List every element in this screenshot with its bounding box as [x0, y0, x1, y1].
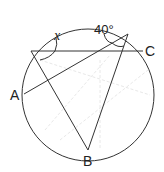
point-label-a: A	[10, 87, 20, 103]
angle-label-40: 40°	[94, 22, 114, 37]
point-label-b: B	[83, 153, 92, 169]
circle	[22, 29, 154, 161]
faint-guides	[40, 55, 150, 150]
geometry-diagram: x 40° C A B	[0, 0, 164, 172]
angle-arc-40	[112, 43, 124, 47]
point-label-c: C	[145, 43, 155, 59]
diagram-canvas: x 40° C A B	[0, 0, 164, 172]
angle-arc-x	[40, 51, 55, 60]
angle-label-x: x	[53, 28, 61, 43]
